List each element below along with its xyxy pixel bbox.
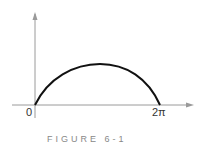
arch-curve	[35, 64, 160, 105]
x-axis-arrow-icon	[186, 103, 194, 108]
x-end-label: 2π	[152, 106, 166, 118]
x-origin-label: 0	[26, 106, 32, 118]
figure-diagram	[0, 0, 202, 155]
y-axis-arrow-icon	[33, 12, 38, 20]
figure-caption: FIGURE 6-1	[47, 134, 127, 144]
